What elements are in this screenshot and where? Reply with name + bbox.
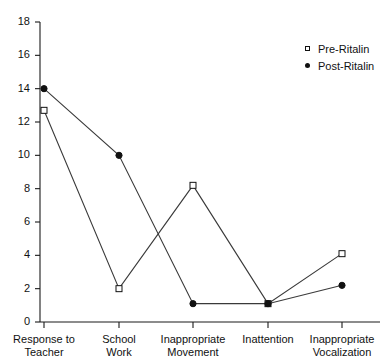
chart-legend: Pre-Ritalin Post-Ritalin (300, 40, 374, 74)
y-tick-label: 6 (8, 216, 30, 227)
legend-label-pre-ritalin: Pre-Ritalin (318, 43, 369, 55)
filled-circle-icon (300, 63, 314, 68)
y-tick-label: 16 (8, 49, 30, 60)
legend-item-post-ritalin: Post-Ritalin (300, 57, 374, 74)
line-chart: 024681012141618 Response to TeacherSchoo… (0, 0, 386, 359)
x-tick-label: Inattention (226, 333, 310, 346)
y-tick-label: 14 (8, 83, 30, 94)
y-tick-label: 8 (8, 183, 30, 194)
y-tick-label: 10 (8, 149, 30, 160)
y-tick-label: 2 (8, 283, 30, 294)
y-tick-label: 0 (8, 316, 30, 327)
legend-label-post-ritalin: Post-Ritalin (318, 60, 374, 72)
legend-item-pre-ritalin: Pre-Ritalin (300, 40, 374, 57)
y-tick-label: 12 (8, 116, 30, 127)
x-tick-label: Response to Teacher (2, 333, 86, 358)
open-square-icon (300, 46, 314, 51)
y-tick-label: 4 (8, 249, 30, 260)
x-tick-label: School Work (77, 333, 161, 358)
x-tick-label: Inappropriate Vocalization (300, 333, 384, 358)
x-tick-label: Inappropriate Movement (151, 333, 235, 358)
y-tick-label: 18 (8, 16, 30, 27)
